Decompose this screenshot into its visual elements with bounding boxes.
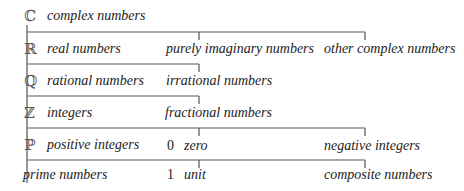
zero-label: zero	[184, 138, 208, 154]
fractional-numbers-label: fractional numbers	[165, 105, 272, 121]
purely-imaginary-label: purely imaginary numbers	[166, 41, 314, 57]
other-complex-label: other complex numbers	[324, 41, 455, 57]
zero-number: 0	[167, 138, 174, 154]
tree-lines	[0, 0, 464, 191]
irrational-numbers-label: irrational numbers	[166, 73, 272, 89]
prime-numbers-label: prime numbers	[23, 167, 107, 183]
unit-number: 1	[167, 167, 174, 183]
positive-integers-symbol: ℙ	[24, 137, 35, 153]
complex-symbol: ℂ	[24, 8, 36, 24]
positive-integers-label: positive integers	[47, 137, 139, 153]
negative-integers-label: negative integers	[324, 138, 420, 154]
composite-numbers-label: composite numbers	[324, 167, 433, 183]
rational-symbol: ℚ	[24, 73, 37, 89]
unit-label: unit	[184, 167, 206, 183]
integers-symbol: ℤ	[24, 105, 35, 121]
rational-numbers-label: rational numbers	[47, 73, 144, 89]
integers-label: integers	[47, 105, 92, 121]
complex-numbers-label: complex numbers	[47, 8, 145, 24]
real-numbers-label: real numbers	[47, 41, 121, 57]
real-symbol: ℝ	[24, 41, 36, 57]
